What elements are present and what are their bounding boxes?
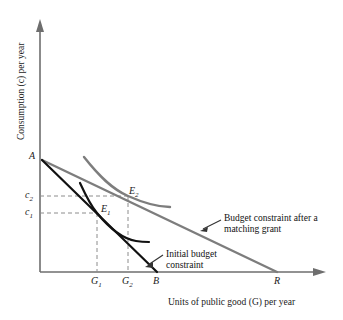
economics-figure: Consumption (c) per year Units of public… <box>0 0 343 320</box>
point-label-b: B <box>153 275 159 287</box>
diagram-canvas <box>0 0 343 320</box>
y-axis-title: Consumption (c) per year <box>16 43 27 140</box>
tick-label-g1: G1 <box>91 275 102 289</box>
annotation-initial-budget-line1: Initial budget <box>166 249 217 260</box>
y-axis-arrowhead <box>36 19 44 32</box>
annotation-matching-grant-line1: Budget constraint after a <box>224 213 318 224</box>
c2-subscript: 2 <box>29 195 33 203</box>
x-axis-title-text: Units of public good (G) per year <box>168 297 295 307</box>
annotation-matching-grant: Budget constraint after a matching grant <box>224 213 318 235</box>
annotation-initial-budget: Initial budget constraint <box>166 249 217 271</box>
y-axis-title-text: Consumption (c) per year <box>16 43 26 140</box>
point-label-r: R <box>274 275 280 287</box>
g1-subscript: 1 <box>98 281 102 289</box>
guide-lines-group <box>40 196 128 272</box>
point-label-a: A <box>29 150 35 162</box>
annotation-matching-grant-line2: matching grant <box>224 224 318 235</box>
point-label-e2: E2 <box>129 185 139 199</box>
matching-grant-arrowhead <box>200 227 208 232</box>
tick-label-c2: c2 <box>25 189 33 203</box>
tick-label-c1: c1 <box>25 206 33 220</box>
x-axis-title: Units of public good (G) per year <box>168 297 295 308</box>
x-axis-arrowhead <box>313 268 326 276</box>
axes-group <box>36 19 326 276</box>
c1-subscript: 1 <box>29 212 33 220</box>
annotation-initial-budget-line2: constraint <box>166 260 217 271</box>
point-label-e1: E1 <box>101 203 111 217</box>
e1-subscript: 1 <box>107 209 111 217</box>
tick-label-g2: G2 <box>122 275 133 289</box>
matching-grant-leader <box>200 220 221 232</box>
g2-subscript: 2 <box>129 281 133 289</box>
e2-subscript: 2 <box>135 191 139 199</box>
